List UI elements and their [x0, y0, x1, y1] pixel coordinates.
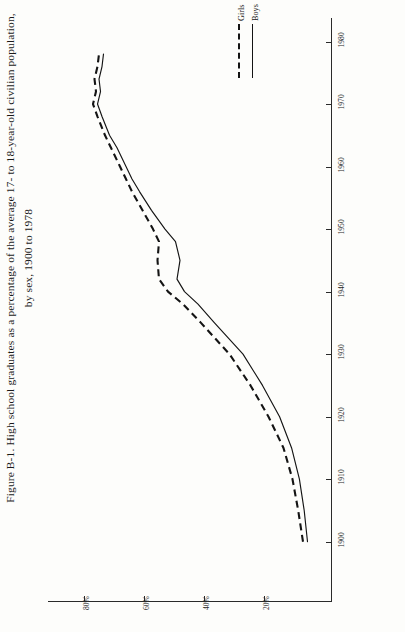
year-tick-label: 1940: [337, 282, 346, 297]
percent-tick-label: 20%: [262, 596, 271, 610]
year-tick-label: 1960: [337, 157, 346, 172]
figure-page: Figure B-1. High school graduates as a p…: [0, 0, 405, 632]
year-tick: [326, 542, 332, 543]
year-tick-label: 1980: [337, 32, 346, 47]
year-tick: [326, 167, 332, 168]
year-tick: [326, 42, 332, 43]
legend-swatch-girls-dashed: [238, 24, 240, 78]
series-boys-line: [98, 54, 308, 542]
figure-caption: Figure B-1. High school graduates as a p…: [2, 0, 46, 518]
caption-line-2: by sex, 1900 to 1978: [20, 0, 38, 518]
year-tick-label: 1920: [337, 407, 346, 422]
year-tick-label: 1950: [337, 219, 346, 234]
caption-line-1: Figure B-1. High school graduates as a p…: [2, 0, 20, 518]
legend-label-girls: Girls: [237, 5, 246, 21]
legend-swatch-boys-solid: [252, 24, 253, 78]
year-tick: [326, 229, 332, 230]
chart-legend: Girls Boys: [232, 6, 302, 80]
percent-tick-label: 40%: [202, 596, 211, 610]
percent-tick-label: 60%: [142, 596, 151, 610]
year-tick: [326, 354, 332, 355]
year-tick: [326, 104, 332, 105]
year-tick-label: 1930: [337, 344, 346, 359]
year-tick-label: 1910: [337, 470, 346, 485]
year-tick-label: 1900: [337, 532, 346, 547]
year-tick-label: 1970: [337, 94, 346, 109]
legend-label-boys: Boys: [251, 4, 260, 21]
percent-tick-label: 80%: [82, 596, 91, 610]
year-tick: [326, 479, 332, 480]
chart-curves: [48, 18, 332, 602]
year-tick: [326, 292, 332, 293]
year-tick: [326, 417, 332, 418]
chart-plot-area: 190019101920193019401950196019701980 20%…: [48, 18, 332, 602]
series-girls-line: [93, 54, 303, 542]
